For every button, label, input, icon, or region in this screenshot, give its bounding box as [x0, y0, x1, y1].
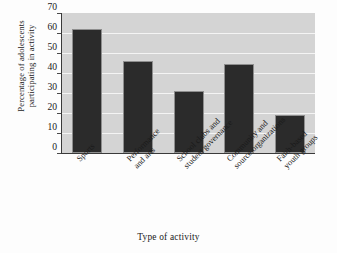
y-tick-label-60: 60 — [34, 22, 57, 32]
y-tick-label-10: 10 — [34, 122, 57, 132]
y-tick-label-50: 50 — [34, 42, 57, 52]
y-tick-label-0: 0 — [34, 142, 57, 152]
y-tick-label-40: 40 — [34, 62, 57, 72]
y-tick-label-20: 20 — [34, 102, 57, 112]
bar-sports — [72, 29, 102, 153]
x-axis-title: Type of activity — [0, 232, 337, 242]
bar-chart-figure: Percentage of adolescents participating … — [0, 0, 337, 253]
y-axis-tick-labels: 0 10 20 30 40 50 60 70 — [34, 7, 57, 159]
y-tick-label-70: 70 — [34, 2, 57, 12]
x-axis-tick-labels: Sports Performance and arts School clubs… — [61, 153, 314, 229]
y-tick-label-30: 30 — [34, 82, 57, 92]
